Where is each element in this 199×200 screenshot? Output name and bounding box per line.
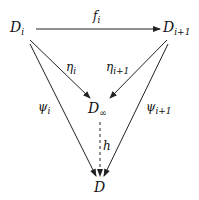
edge-sub: i+1 bbox=[113, 66, 129, 76]
arrow-eta-i bbox=[30, 40, 90, 98]
node-sub: ∞ bbox=[99, 108, 107, 118]
label-h: h bbox=[103, 140, 111, 152]
node-base: D bbox=[163, 19, 174, 35]
label-psi-i1: ψi+1 bbox=[146, 101, 172, 116]
node-D-i: Di bbox=[10, 20, 24, 37]
edge-sub: i bbox=[73, 66, 76, 76]
label-f-i: fi bbox=[93, 10, 100, 25]
node-D-i1: Di+1 bbox=[163, 20, 190, 37]
node-sub: i+1 bbox=[174, 27, 190, 37]
edge-sub: i bbox=[97, 15, 100, 25]
edge-base: h bbox=[103, 139, 111, 153]
edge-base: ψ bbox=[38, 100, 47, 114]
edge-sub: i bbox=[47, 106, 50, 116]
label-eta-i1: ηi+1 bbox=[106, 61, 129, 76]
node-D: D bbox=[94, 180, 105, 194]
edge-base: ψ bbox=[146, 100, 155, 114]
label-psi-i: ψi bbox=[38, 101, 50, 116]
node-base: D bbox=[94, 179, 105, 195]
edge-sub: i+1 bbox=[155, 106, 171, 116]
node-base: D bbox=[88, 100, 99, 116]
node-sub: i bbox=[21, 27, 24, 37]
node-D-inf: D∞ bbox=[88, 101, 107, 118]
node-base: D bbox=[10, 19, 21, 35]
label-eta-i: ηi bbox=[66, 61, 76, 76]
